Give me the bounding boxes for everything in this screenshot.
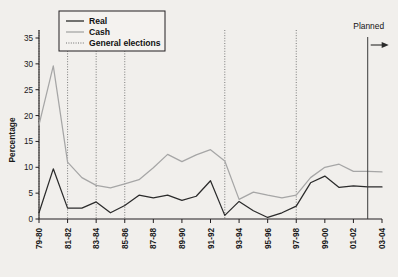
x-tick-labels-group: 79-8081-8283-8485-8687-8889-9091-9293-94… <box>35 219 387 249</box>
y-tick-label: 10 <box>24 163 34 172</box>
x-tick-label: 91-92 <box>207 228 216 249</box>
planned-arrow-head <box>382 42 389 48</box>
x-tick-label: 03-04 <box>378 228 387 249</box>
planned-annotation-group: Planned <box>353 21 388 219</box>
y-tick-label: 30 <box>24 60 34 69</box>
legend-label-0: Real <box>89 16 107 26</box>
x-tick-label: 99-00 <box>321 228 330 249</box>
x-tick-label: 93-94 <box>235 228 244 249</box>
x-tick-label: 89-90 <box>178 228 187 249</box>
y-tick-labels-group: 05101520253035 <box>24 34 39 224</box>
x-tick-label: 97-98 <box>292 228 301 249</box>
planned-label: Planned <box>353 21 384 31</box>
legend-label-2: General elections <box>89 38 161 48</box>
election-lines-group <box>39 30 296 219</box>
y-tick-label: 25 <box>24 86 34 95</box>
x-tick-label: 83-84 <box>92 228 101 249</box>
legend-group: RealCashGeneral elections <box>59 11 165 51</box>
x-tick-label: 81-82 <box>64 228 73 249</box>
x-tick-label: 79-80 <box>35 228 44 249</box>
percentage-line-chart: 05101520253035 79-8081-8283-8485-8687-88… <box>0 0 398 277</box>
y-tick-label: 20 <box>24 112 34 121</box>
x-tick-label: 95-96 <box>264 228 273 249</box>
series-line-real <box>39 169 382 218</box>
axis-lines <box>39 30 382 219</box>
axes-group <box>39 30 382 219</box>
chart-container: 05101520253035 79-8081-8283-8485-8687-88… <box>0 0 398 277</box>
series-line-cash <box>39 66 382 199</box>
x-tick-label: 87-88 <box>149 228 158 249</box>
x-tick-label: 01-02 <box>349 228 358 249</box>
y-axis-label: Percentage <box>7 117 17 162</box>
y-tick-label: 35 <box>24 34 34 43</box>
y-tick-label: 5 <box>28 189 33 198</box>
data-series-group <box>39 66 382 218</box>
legend-label-1: Cash <box>89 27 110 37</box>
y-tick-label: 0 <box>28 215 33 224</box>
x-tick-label: 85-86 <box>121 228 130 249</box>
y-tick-label: 15 <box>24 137 34 146</box>
